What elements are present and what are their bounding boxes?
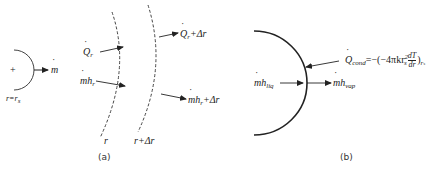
enthalpy-in-label: mhr (80, 76, 95, 88)
mass-flow-label: m (51, 65, 58, 75)
heat-out-arrow (159, 33, 178, 37)
enthalpy-out-arrow (161, 94, 186, 99)
droplet-radius-label: r=rs (6, 95, 20, 105)
diagram-graphics (0, 0, 446, 172)
plus-sign: + (10, 65, 16, 75)
heat-out-label: Qr+Δr (180, 29, 206, 41)
outer-shell-dashed (138, 5, 156, 132)
vapor-enthalpy-label: mhvap (333, 78, 355, 90)
enthalpy-in-arrow (96, 81, 125, 86)
conduction-arrow (306, 61, 339, 67)
caption-b: (b) (340, 153, 353, 162)
inner-shell-label: r (104, 136, 108, 146)
liquid-enthalpy-label: mhliq (254, 78, 274, 90)
derivative: dTdr (408, 52, 416, 69)
caption-a: (a) (98, 153, 111, 162)
droplet-surface (14, 50, 34, 90)
outer-shell-label: r+Δr (134, 136, 154, 146)
enthalpy-out-label: mhr+Δr (188, 95, 219, 107)
diagram-canvas: + m r=rs Qr mhr Qr+Δr mhr+Δr r r+Δr (a) … (0, 0, 446, 172)
conduction-equation: Qcond=−(−4πkr2sdTdr)rs (345, 52, 425, 69)
inner-shell-dashed (100, 12, 120, 138)
heat-in-label: Qr (83, 47, 93, 59)
